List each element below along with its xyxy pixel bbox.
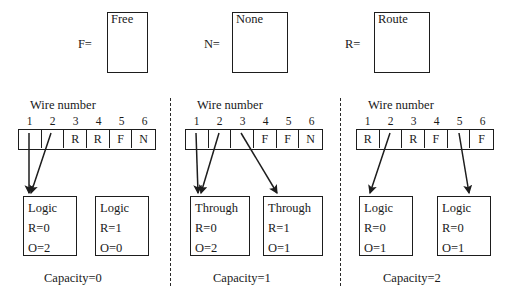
panel-caption: Capacity=2	[383, 272, 441, 285]
node-o-value: O=2	[195, 238, 249, 258]
panel-capacity-0: F= Free Wire number 1 2 3 4 5 6 R R F N	[0, 0, 170, 298]
node-r-value: R=0	[364, 218, 412, 238]
node-r-value: R=0	[28, 218, 76, 238]
panel-caption: Capacity=0	[44, 272, 102, 285]
node-box-1: Logic R=0 O=1	[359, 196, 413, 256]
node-box-1: Logic R=0 O=2	[23, 196, 77, 256]
node-title: Logic	[442, 198, 490, 218]
node-box-2: Logic R=1 O=0	[95, 196, 149, 256]
node-o-value: O=1	[442, 238, 490, 258]
panel-divider-1	[170, 98, 171, 286]
panel-capacity-1: N= None Wire number 1 2 3 4 5 6 F F N	[171, 0, 341, 298]
node-o-value: O=1	[268, 238, 322, 258]
diagram-canvas: F= Free Wire number 1 2 3 4 5 6 R R F N	[0, 0, 512, 298]
node-r-value: R=1	[268, 218, 322, 238]
node-box-2: Logic R=0 O=1	[437, 196, 491, 256]
node-r-value: R=0	[442, 218, 490, 238]
node-o-value: O=0	[100, 238, 148, 258]
node-title: Through	[268, 198, 322, 218]
node-r-value: R=0	[195, 218, 249, 238]
arrow-wire-2-to-node-1	[370, 133, 390, 193]
arrow-wire-5-to-node-2	[459, 133, 469, 193]
node-title: Logic	[28, 198, 76, 218]
arrow-wire-3-to-node-2	[241, 133, 277, 193]
node-o-value: O=2	[28, 238, 76, 258]
panel-divider-2	[340, 98, 341, 286]
arrow-wire-1-to-node-1	[196, 133, 198, 193]
node-title: Logic	[364, 198, 412, 218]
arrow-wire-2-to-node-1	[31, 133, 51, 193]
panel-caption: Capacity=1	[213, 272, 271, 285]
node-title: Logic	[100, 198, 148, 218]
node-o-value: O=1	[364, 238, 412, 258]
panel-capacity-2: R= Route Wire number 1 2 3 4 5 6 R R F F	[341, 0, 511, 298]
node-box-2: Through R=1 O=1	[263, 196, 323, 256]
arrow-wire-2-to-node-1	[201, 133, 219, 193]
node-title: Through	[195, 198, 249, 218]
node-r-value: R=1	[100, 218, 148, 238]
node-box-1: Through R=0 O=2	[190, 196, 250, 256]
